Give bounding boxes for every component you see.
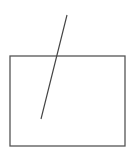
diagonal-line bbox=[41, 15, 67, 119]
diagram-canvas bbox=[0, 0, 137, 159]
rectangle-shape bbox=[10, 56, 125, 146]
